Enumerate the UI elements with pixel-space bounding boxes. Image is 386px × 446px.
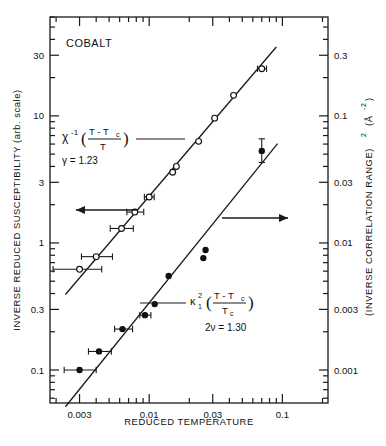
x-axis-title: REDUCED TEMPERATURE xyxy=(124,416,253,427)
y-axis-right-units-close: ) xyxy=(363,97,374,101)
kappa-denominator-sub: c xyxy=(230,310,234,317)
data-point-filled xyxy=(152,302,157,307)
x-tick-label: 0.003 xyxy=(68,409,92,420)
paren-open-icon: ( xyxy=(81,129,87,148)
data-point-open xyxy=(146,194,152,200)
y-axis-left-tick-labels: 3010310.30.1 xyxy=(31,50,44,376)
y-axis-right-tick-labels: 0.30.10.030.010.0030.001 xyxy=(334,50,358,376)
chi-symbol: χ xyxy=(62,130,69,144)
data-point-open xyxy=(77,266,83,272)
y-left-tick-label: 0.1 xyxy=(31,365,44,376)
kappa-symbol: κ xyxy=(190,295,196,307)
paren-close-icon: ) xyxy=(123,129,129,148)
annotation-correlation: κ 1 2 ( T - T c T c ) 2ν = 1.30 xyxy=(140,290,254,333)
y-axis-right-units-sup: -2 xyxy=(360,103,367,110)
left-axis-arrow-icon xyxy=(76,206,138,214)
data-point-open xyxy=(231,92,237,98)
nu-exponent-label: 2ν = 1.30 xyxy=(205,322,247,333)
data-point-filled xyxy=(120,326,125,331)
y-axis-right-title-main: (INVERSE CORRELATION RANGE) xyxy=(363,148,374,316)
data-point-filled xyxy=(96,349,101,354)
data-point-open xyxy=(173,164,179,170)
kappa-sup: 2 xyxy=(198,291,202,300)
x-axis-ticks-top xyxy=(56,17,322,26)
chi-numerator-sub: c xyxy=(116,131,120,138)
log-log-scatter-plot: 0.0030.010.030.1 3010310.30.1 0.30.10.03… xyxy=(0,0,386,446)
chi-exponent: -1 xyxy=(71,128,79,137)
x-tick-label: 0.1 xyxy=(276,409,289,420)
data-point-open xyxy=(196,138,202,144)
annotation-susceptibility: χ -1 ( T - T c T ) γ = 1.23 xyxy=(62,126,185,166)
y-left-tick-label: 30 xyxy=(33,50,44,61)
chi-numerator: T - T xyxy=(89,126,109,137)
data-point-filled xyxy=(201,255,206,260)
y-axis-right-ticks xyxy=(319,27,328,398)
x-axis-ticks xyxy=(56,394,322,403)
panel-label: COBALT xyxy=(66,37,112,49)
paren-close-icon-2: ) xyxy=(248,293,254,312)
data-point-open xyxy=(212,115,218,121)
data-point-open xyxy=(170,169,176,175)
y-left-tick-label: 1 xyxy=(39,237,44,248)
y-axis-left-title: INVERSE REDUCED SUSCEPTIBILITY (arb. sca… xyxy=(11,89,22,330)
chi-denominator: T xyxy=(100,141,106,152)
data-point-filled xyxy=(142,313,147,318)
data-point-filled xyxy=(166,273,171,278)
paren-open-icon-2: ( xyxy=(206,293,212,312)
data-point-open xyxy=(93,254,99,260)
series-susceptibility xyxy=(53,66,266,273)
y-right-tick-label: 0.001 xyxy=(334,365,358,376)
kappa-denominator: T xyxy=(222,305,228,316)
data-point-filled xyxy=(77,367,82,372)
figure-panel: 0.0030.010.030.1 3010310.30.1 0.30.10.03… xyxy=(0,0,386,446)
y-right-tick-label: 0.003 xyxy=(334,304,358,315)
data-point-filled xyxy=(203,247,208,252)
y-axis-left-ticks xyxy=(50,17,59,398)
kappa-numerator: T - T xyxy=(214,290,234,301)
right-axis-arrow-icon xyxy=(222,214,288,222)
data-point-open xyxy=(119,226,125,232)
gamma-exponent-label: γ = 1.23 xyxy=(62,155,98,166)
y-axis-right-title: (INVERSE CORRELATION RANGE) 2 (Å -2 ) xyxy=(360,97,374,316)
y-axis-right-title-sup: 2 xyxy=(360,133,367,137)
y-right-tick-label: 0.3 xyxy=(334,50,347,61)
y-right-tick-label: 0.01 xyxy=(334,237,353,248)
y-left-tick-label: 10 xyxy=(33,110,44,121)
data-point-open xyxy=(259,66,265,72)
y-left-tick-label: 0.3 xyxy=(31,304,44,315)
kappa-sub: 1 xyxy=(198,303,202,310)
y-left-tick-label: 3 xyxy=(39,177,44,188)
data-point-filled xyxy=(259,148,264,153)
kappa-numerator-sub: c xyxy=(241,295,245,302)
y-right-tick-label: 0.03 xyxy=(334,177,353,188)
y-axis-right-units-open: (Å xyxy=(363,115,374,126)
y-right-tick-label: 0.1 xyxy=(334,110,347,121)
